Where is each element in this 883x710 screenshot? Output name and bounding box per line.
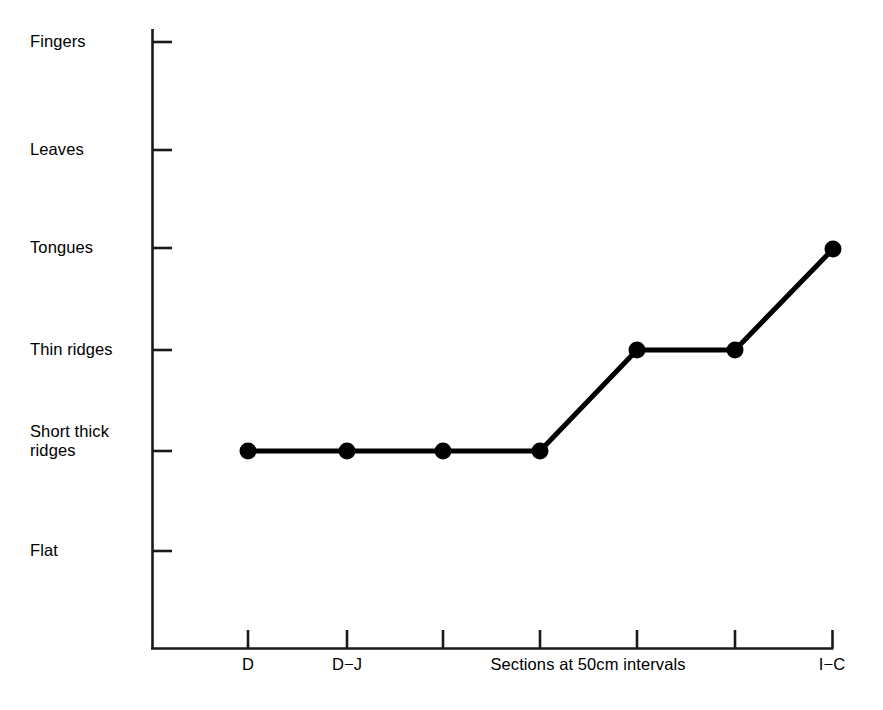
x-axis-ticks bbox=[248, 630, 833, 648]
y-label-fingers: Fingers bbox=[30, 32, 86, 51]
series-markers bbox=[240, 241, 842, 460]
data-point-marker bbox=[727, 342, 744, 359]
data-point-marker bbox=[629, 342, 646, 359]
x-axis-title: Sections at 50cm intervals bbox=[408, 655, 768, 674]
series-line bbox=[248, 249, 833, 451]
data-point-marker bbox=[532, 443, 549, 460]
x-label-i-c: I−C bbox=[782, 655, 882, 674]
y-label-flat: Flat bbox=[30, 541, 58, 560]
data-point-marker bbox=[339, 443, 356, 460]
y-axis-ticks bbox=[152, 42, 172, 551]
y-label-leaves: Leaves bbox=[30, 140, 84, 159]
x-label-d-j: D−J bbox=[297, 655, 397, 674]
chart-container: Fingers Leaves Tongues Thin ridges Short… bbox=[0, 0, 883, 710]
data-point-marker bbox=[435, 443, 452, 460]
data-point-marker bbox=[825, 241, 842, 258]
y-label-thin-ridges: Thin ridges bbox=[30, 340, 113, 359]
x-label-d: D bbox=[208, 655, 288, 674]
chart-plot-area bbox=[0, 0, 883, 710]
y-label-tongues: Tongues bbox=[30, 238, 93, 257]
data-point-marker bbox=[240, 443, 257, 460]
y-label-short-thick-ridges: Short thick ridges bbox=[30, 422, 109, 460]
